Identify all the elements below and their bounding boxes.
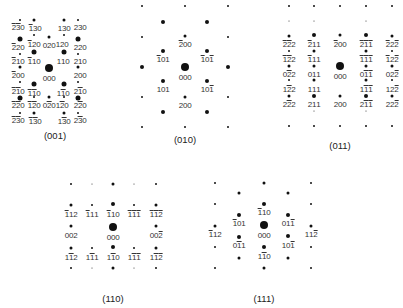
diffraction-spot: [314, 111, 315, 112]
miller-index-label: 020: [43, 101, 56, 110]
diffraction-spot: [238, 257, 241, 260]
diffraction-spot: [77, 19, 79, 21]
diffraction-spot: [155, 204, 158, 207]
zone-axis-caption: (110): [102, 293, 123, 304]
miller-index-label: 111: [360, 55, 373, 64]
miller-index-label: 002: [65, 231, 78, 240]
miller-index-label: 022: [283, 70, 296, 79]
miller-index-label: 130: [58, 24, 71, 33]
miller-index-label: 210: [74, 87, 87, 96]
miller-index-label: 111: [360, 85, 373, 94]
miller-index-label: 101: [157, 85, 170, 94]
diffraction-spot: [391, 5, 393, 7]
diffraction-spot: [286, 234, 290, 238]
diffraction-spot: [70, 225, 73, 228]
diffraction-spot: [134, 184, 135, 185]
diffraction-spot: [288, 65, 291, 68]
diffraction-spot: [19, 53, 21, 55]
miller-index-label: 220: [74, 43, 87, 52]
miller-index-label: 122: [283, 55, 296, 64]
diffraction-spot: [227, 126, 229, 128]
miller-index-label: 020: [43, 41, 56, 50]
diffraction-spot: [111, 245, 115, 249]
miller-index-label: 011: [308, 70, 321, 79]
diffraction-spot: [313, 5, 315, 7]
miller-index-label: 130: [58, 117, 71, 126]
diffraction-spot: [263, 182, 266, 185]
diffraction-spot: [312, 94, 316, 98]
diffraction-spot: [62, 50, 67, 55]
miller-index-label: 101: [201, 85, 214, 94]
diffraction-spot: [205, 20, 209, 24]
diffraction-spot: [161, 20, 165, 24]
miller-index-label: 222: [283, 40, 296, 49]
diffraction-spot: [336, 62, 344, 70]
diffraction-spot: [32, 50, 37, 55]
miller-index-label: 111: [86, 210, 99, 219]
diffraction-spot: [364, 94, 368, 98]
diffraction-spot: [184, 5, 186, 7]
diffraction-spot: [181, 63, 189, 71]
diffraction-spot: [310, 225, 313, 228]
diffraction-spot: [184, 126, 186, 128]
diffraction-spot: [155, 267, 157, 269]
miller-index-label: 220: [74, 101, 87, 110]
diffraction-spot: [133, 247, 135, 249]
diffraction-spot: [205, 79, 209, 83]
miller-index-label: 222: [386, 40, 399, 49]
miller-index-label: 211: [308, 40, 321, 49]
diffraction-spot: [262, 202, 266, 206]
miller-index-label: 130: [29, 24, 42, 33]
miller-index-label: 200: [74, 71, 87, 80]
miller-index-label: 110: [258, 208, 271, 217]
diffraction-spot: [364, 33, 368, 37]
diffraction-spot: [33, 112, 36, 115]
diffraction-spot: [134, 268, 135, 269]
diffraction-spot: [70, 267, 72, 269]
diffraction-spot: [161, 79, 165, 83]
diffraction-spot: [133, 204, 135, 206]
diffraction-spot: [161, 110, 165, 114]
diffraction-spot: [288, 95, 291, 98]
miller-index-label: 230: [12, 116, 25, 125]
miller-index-label: 022: [386, 70, 399, 79]
diffraction-spot: [70, 247, 73, 250]
miller-index-label: 230: [74, 23, 87, 32]
diffraction-spot: [391, 35, 394, 38]
miller-index-label: 011: [233, 241, 246, 250]
diffraction-spot: [365, 65, 368, 68]
diffraction-spot: [287, 192, 290, 195]
diffraction-spot: [310, 246, 312, 248]
diffraction-spot: [32, 82, 37, 87]
diffraction-spot: [77, 53, 79, 55]
miller-index-label: 210: [12, 87, 25, 96]
miller-index-label: 220: [12, 43, 25, 52]
miller-index-label: 220: [12, 101, 25, 110]
miller-index-label: 210: [74, 57, 87, 66]
miller-index-label: 122: [386, 85, 399, 94]
miller-index-label: 230: [74, 116, 87, 125]
diffraction-spot: [226, 65, 230, 69]
miller-index-label: 000: [179, 73, 192, 82]
zone-axis-caption: (011): [329, 140, 350, 151]
miller-index-label: 200: [12, 71, 25, 80]
diffraction-spot: [391, 50, 393, 52]
zone-axis-caption: (001): [44, 130, 66, 141]
diffraction-spot: [18, 37, 23, 42]
diffraction-spot: [214, 246, 216, 248]
diffraction-spot: [365, 5, 367, 7]
diffraction-spot: [366, 111, 367, 112]
diffraction-spot: [287, 257, 290, 260]
diffraction-spot: [19, 81, 21, 83]
diffraction-spot: [140, 65, 144, 69]
diffraction-spot: [365, 50, 368, 53]
diffraction-spot: [314, 21, 315, 22]
miller-index-label: 111: [128, 210, 141, 219]
diffraction-spot: [205, 49, 209, 53]
diffraction-spot: [227, 96, 229, 98]
diffraction-spot: [109, 223, 117, 231]
diffraction-spot: [238, 192, 241, 195]
zone-axis-caption: (111): [254, 293, 275, 304]
diffraction-spot: [19, 19, 21, 21]
diffraction-spot: [184, 35, 187, 38]
